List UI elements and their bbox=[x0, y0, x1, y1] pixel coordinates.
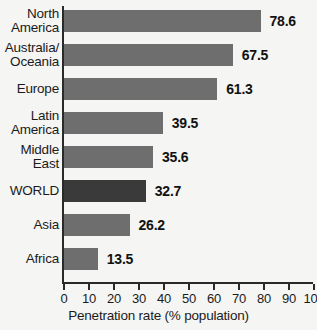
bar-value-label: 35.6 bbox=[162, 149, 188, 165]
x-axis-tick-label: 10 bbox=[82, 291, 96, 306]
category-label: North America bbox=[0, 7, 59, 35]
bar-row: Europe61.3 bbox=[0, 78, 317, 100]
bar-value-label: 13.5 bbox=[107, 251, 133, 267]
x-axis-tick bbox=[63, 284, 65, 290]
bar-row: Africa13.5 bbox=[0, 248, 317, 270]
bar-value-label: 67.5 bbox=[242, 47, 268, 63]
x-axis-tick-label: 20 bbox=[107, 291, 121, 306]
bar-value-label: 26.2 bbox=[139, 217, 165, 233]
bar bbox=[64, 78, 217, 100]
x-axis-tick bbox=[113, 284, 115, 290]
bar-value-label: 32.7 bbox=[155, 183, 181, 199]
x-axis-tick-label: 50 bbox=[182, 291, 196, 306]
x-axis-tick-label: 30 bbox=[132, 291, 146, 306]
category-label: Latin America bbox=[0, 109, 59, 137]
bar bbox=[64, 146, 153, 168]
bar-value-label: 61.3 bbox=[226, 81, 252, 97]
x-axis-tick-label: 80 bbox=[257, 291, 271, 306]
bar-value-label: 39.5 bbox=[172, 115, 198, 131]
x-axis-tick bbox=[288, 284, 290, 290]
bar bbox=[64, 248, 98, 270]
category-label: WORLD bbox=[0, 184, 59, 198]
bar-row: Australia/ Oceania67.5 bbox=[0, 44, 317, 66]
bar bbox=[64, 214, 130, 236]
x-axis-tick bbox=[213, 284, 215, 290]
x-axis-tick bbox=[238, 284, 240, 290]
bar bbox=[64, 112, 163, 134]
category-label: Asia bbox=[0, 218, 59, 232]
x-axis-tick-label: 70 bbox=[232, 291, 246, 306]
x-axis-tick-label: 100 bbox=[303, 291, 317, 306]
x-axis-tick bbox=[88, 284, 90, 290]
bar-value-label: 78.6 bbox=[270, 13, 296, 29]
penetration-rate-bar-chart: North America78.6Australia/ Oceania67.5E… bbox=[0, 0, 317, 330]
bar-row: Middle East35.6 bbox=[0, 146, 317, 168]
category-label: Australia/ Oceania bbox=[0, 41, 59, 69]
x-axis-tick bbox=[163, 284, 165, 290]
bar bbox=[64, 10, 261, 32]
x-axis-tick bbox=[138, 284, 140, 290]
x-axis-tick bbox=[263, 284, 265, 290]
category-label: Africa bbox=[0, 252, 59, 266]
x-axis-tick-label: 90 bbox=[282, 291, 296, 306]
bar-row: Asia26.2 bbox=[0, 214, 317, 236]
bar-row: WORLD32.7 bbox=[0, 180, 317, 202]
category-label: Europe bbox=[0, 82, 59, 96]
bar bbox=[64, 44, 233, 66]
bar bbox=[64, 180, 146, 202]
x-axis-tick bbox=[313, 284, 315, 290]
x-axis-tick-label: 0 bbox=[60, 291, 67, 306]
plot-area: North America78.6Australia/ Oceania67.5E… bbox=[0, 0, 317, 330]
x-axis-title: Penetration rate (% population) bbox=[0, 308, 317, 324]
x-axis-tick-label: 60 bbox=[207, 291, 221, 306]
x-axis-tick-label: 40 bbox=[157, 291, 171, 306]
category-label: Middle East bbox=[0, 143, 59, 171]
x-axis-tick bbox=[188, 284, 190, 290]
bar-row: Latin America39.5 bbox=[0, 112, 317, 134]
bar-row: North America78.6 bbox=[0, 10, 317, 32]
